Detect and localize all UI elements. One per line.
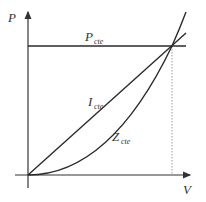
i-cte-curve xyxy=(28,33,186,175)
pv-diagram: P V P cte I cte Z cte xyxy=(0,0,206,202)
svg-text:cte: cte xyxy=(94,37,104,46)
svg-text:P: P xyxy=(84,29,93,44)
z-cte-curve xyxy=(28,12,186,175)
x-axis-label: V xyxy=(183,182,193,197)
i-cte-label: I cte xyxy=(87,94,104,111)
p-cte-label: P cte xyxy=(84,29,104,46)
z-cte-label: Z cte xyxy=(112,129,131,146)
svg-text:cte: cte xyxy=(94,102,104,111)
svg-text:I: I xyxy=(87,94,93,109)
y-axis-label: P xyxy=(7,10,16,25)
svg-text:cte: cte xyxy=(121,137,131,146)
svg-text:Z: Z xyxy=(112,129,120,144)
